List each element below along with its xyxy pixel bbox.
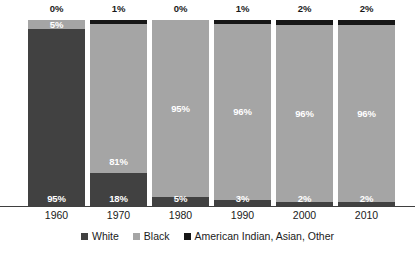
bar-top-label-2000: 2% (276, 4, 333, 14)
stacked-bar-chart: 0% 5% 95% 1% 81% 18% (0, 0, 415, 254)
x-axis-line (0, 206, 415, 207)
segment-black-1960[interactable]: 5% (28, 20, 85, 29)
bar-group-2010[interactable]: 2% 96% 2% (338, 0, 395, 206)
bar-group-1980[interactable]: 0% 95% 5% (152, 0, 209, 206)
bar-stack-1970: 81% 18% (90, 20, 147, 206)
x-tick-1960: 1960 (28, 208, 85, 223)
x-tick-1990: 1990 (214, 208, 271, 223)
segment-black-1970[interactable]: 81% (90, 24, 147, 172)
bar-top-label-1960: 0% (28, 4, 85, 14)
segment-black-1980[interactable]: 95% (152, 20, 209, 197)
segment-label-white-1980: 5% (152, 194, 209, 204)
segment-label-black-1970: 81% (90, 157, 147, 167)
segment-label-black-2010: 96% (357, 109, 376, 119)
legend-swatch-white-icon (81, 233, 88, 240)
segment-white-1980[interactable]: 5% (152, 197, 209, 206)
bar-top-label-1990: 1% (214, 4, 271, 14)
segment-label-white-1990: 3% (214, 194, 271, 204)
legend-label-white: White (92, 230, 119, 242)
legend-item-other[interactable]: American Indian, Asian, Other (184, 230, 335, 242)
legend-label-black: Black (144, 230, 170, 242)
segment-white-1970[interactable]: 18% (90, 173, 147, 206)
segment-black-2000[interactable]: 96% (276, 25, 333, 202)
legend-swatch-black-icon (133, 233, 140, 240)
x-tick-1980: 1980 (152, 208, 209, 223)
bar-stack-2000: 96% 2% (276, 20, 333, 206)
legend-swatch-other-icon (184, 233, 191, 240)
segment-label-black-1960: 5% (50, 20, 64, 30)
bar-group-1970[interactable]: 1% 81% 18% (90, 0, 147, 206)
legend-item-black[interactable]: Black (133, 230, 170, 242)
bar-group-1960[interactable]: 0% 5% 95% (28, 0, 85, 206)
x-tick-1970: 1970 (90, 208, 147, 223)
bar-group-1990[interactable]: 1% 96% 3% (214, 0, 271, 206)
chart-legend: White Black American Indian, Asian, Othe… (0, 228, 415, 244)
segment-label-white-1960: 95% (28, 194, 85, 204)
bar-top-label-1970: 1% (90, 4, 147, 14)
segment-label-white-1970: 18% (90, 194, 147, 204)
x-axis-tick-labels: 1960 1970 1980 1990 2000 2010 (0, 208, 415, 224)
x-tick-2000: 2000 (276, 208, 333, 223)
bar-stack-2010: 96% 2% (338, 20, 395, 206)
bar-stack-1990: 96% 3% (214, 20, 271, 206)
segment-label-black-2000: 96% (295, 109, 314, 119)
bar-top-label-2010: 2% (338, 4, 395, 14)
segment-black-1990[interactable]: 96% (214, 24, 271, 200)
bar-top-label-1980: 0% (152, 4, 209, 14)
segment-label-black-1980: 95% (171, 104, 190, 114)
segment-black-2010[interactable]: 96% (338, 25, 395, 202)
segment-label-white-2000: 2% (276, 194, 333, 204)
plot-area: 0% 5% 95% 1% 81% 18% (0, 0, 415, 206)
legend-item-white[interactable]: White (81, 230, 119, 242)
legend-label-other: American Indian, Asian, Other (195, 230, 335, 242)
segment-label-black-1990: 96% (233, 107, 252, 117)
bar-stack-1980: 95% 5% (152, 20, 209, 206)
bar-group-2000[interactable]: 2% 96% 2% (276, 0, 333, 206)
segment-white-1960[interactable]: 95% (28, 29, 85, 206)
x-tick-2010: 2010 (338, 208, 395, 223)
segment-label-white-2010: 2% (338, 194, 395, 204)
bar-stack-1960: 5% 95% (28, 20, 85, 206)
